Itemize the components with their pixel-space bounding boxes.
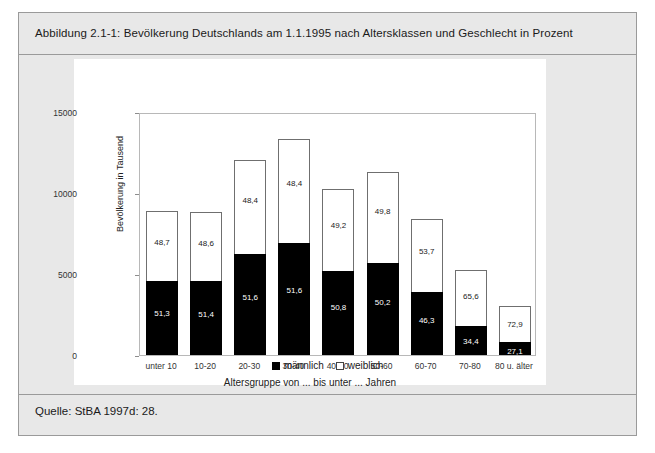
bar-stack[interactable]: 48,451,6 — [234, 160, 266, 355]
bar-stack[interactable]: 48,751,3 — [146, 211, 178, 355]
bar-stack[interactable]: 72,927,1 — [499, 306, 531, 355]
bar-segment-male[interactable]: 51,6 — [234, 254, 266, 355]
bar-segment-female[interactable]: 49,8 — [367, 172, 399, 263]
bar-group[interactable]: 49,850,2 — [361, 114, 405, 355]
bar-segment-female[interactable]: 65,6 — [455, 270, 487, 326]
bar-segment-female[interactable]: 72,9 — [499, 306, 531, 342]
y-tick-mark — [135, 356, 139, 357]
bar-stack[interactable]: 48,451,6 — [278, 139, 310, 355]
bar-value-label-male: 46,3 — [412, 316, 442, 325]
bar-group[interactable]: 48,751,3 — [140, 114, 184, 355]
bar-value-label-male: 50,2 — [368, 298, 398, 307]
bar-segment-male[interactable]: 51,3 — [146, 281, 178, 355]
y-tick-label: 15000 — [17, 108, 77, 118]
y-tick-label: 10000 — [17, 189, 77, 199]
y-tick-label: 5000 — [17, 270, 77, 280]
bar-segment-female[interactable]: 48,7 — [146, 211, 178, 281]
figure-caption: Abbildung 2.1-1: Bevölkerung Deutschland… — [35, 27, 573, 39]
bar-value-label-male: 51,6 — [279, 286, 309, 295]
bar-value-label-female: 48,7 — [147, 238, 177, 247]
bar-value-label-male: 51,6 — [235, 293, 265, 302]
caption-divider — [19, 54, 636, 55]
bar-segment-female[interactable]: 53,7 — [411, 219, 443, 292]
bar-value-label-female: 48,4 — [279, 179, 309, 188]
bar-value-label-female: 53,7 — [412, 247, 442, 256]
bar-value-label-male: 50,8 — [323, 303, 353, 312]
bar-segment-male[interactable]: 27,1 — [499, 342, 531, 355]
bar-value-label-male: 51,3 — [147, 309, 177, 318]
bar-group[interactable]: 49,250,8 — [316, 114, 360, 355]
bar-segment-male[interactable]: 51,6 — [278, 243, 310, 355]
bar-segment-male[interactable]: 34,4 — [455, 326, 487, 355]
bar-segment-female[interactable]: 48,4 — [234, 160, 266, 254]
bar-value-label-male: 34,4 — [456, 337, 486, 346]
bar-stack[interactable]: 49,850,2 — [367, 172, 399, 355]
legend-item-female: weiblich — [336, 360, 384, 371]
bar-value-label-female: 49,8 — [368, 207, 398, 216]
source-divider — [19, 394, 636, 395]
bar-segment-female[interactable]: 48,4 — [278, 139, 310, 244]
bar-group[interactable]: 65,634,4 — [449, 114, 493, 355]
bar-group[interactable]: 48,651,4 — [184, 114, 228, 355]
chart-legend: männlich weiblich — [19, 360, 636, 371]
legend-swatch-male-icon — [272, 362, 280, 370]
bar-group[interactable]: 48,451,6 — [228, 114, 272, 355]
bar-group[interactable]: 53,746,3 — [405, 114, 449, 355]
bar-stack[interactable]: 49,250,8 — [322, 189, 354, 355]
bar-group[interactable]: 72,927,1 — [493, 114, 537, 355]
bar-segment-male[interactable]: 50,2 — [367, 263, 399, 355]
bar-stack[interactable]: 48,651,4 — [190, 212, 222, 355]
legend-label-male: männlich — [284, 360, 324, 371]
x-axis-title: Altersgruppe von ... bis unter ... Jahre… — [74, 377, 546, 388]
y-axis-title: Bevölkerung in Tausend — [115, 104, 125, 264]
bar-segment-male[interactable]: 46,3 — [411, 292, 443, 355]
bar-value-label-male: 27,1 — [500, 347, 530, 356]
figure-container: Abbildung 2.1-1: Bevölkerung Deutschland… — [18, 12, 637, 436]
bar-value-label-female: 48,6 — [191, 239, 221, 248]
bar-segment-male[interactable]: 51,4 — [190, 281, 222, 355]
chart-panel: Bevölkerung in Tausend 050001000015000 4… — [74, 59, 546, 385]
bar-segment-female[interactable]: 49,2 — [322, 189, 354, 271]
legend-item-male: männlich — [272, 360, 324, 371]
legend-label-female: weiblich — [348, 360, 384, 371]
bar-segment-male[interactable]: 50,8 — [322, 271, 354, 355]
bar-value-label-female: 49,2 — [323, 221, 353, 230]
bar-value-label-male: 51,4 — [191, 310, 221, 319]
bar-stack[interactable]: 65,634,4 — [455, 270, 487, 355]
bar-segment-female[interactable]: 48,6 — [190, 212, 222, 282]
plot-area: 48,751,348,651,448,451,648,451,649,250,8… — [139, 113, 536, 356]
bar-group[interactable]: 48,451,6 — [272, 114, 316, 355]
bar-value-label-female: 48,4 — [235, 196, 265, 205]
legend-swatch-female-icon — [336, 362, 344, 370]
figure-source: Quelle: StBA 1997d: 28. — [35, 405, 158, 417]
bar-value-label-female: 65,6 — [456, 292, 486, 301]
bar-value-label-female: 72,9 — [500, 320, 530, 329]
bar-stack[interactable]: 53,746,3 — [411, 219, 443, 355]
